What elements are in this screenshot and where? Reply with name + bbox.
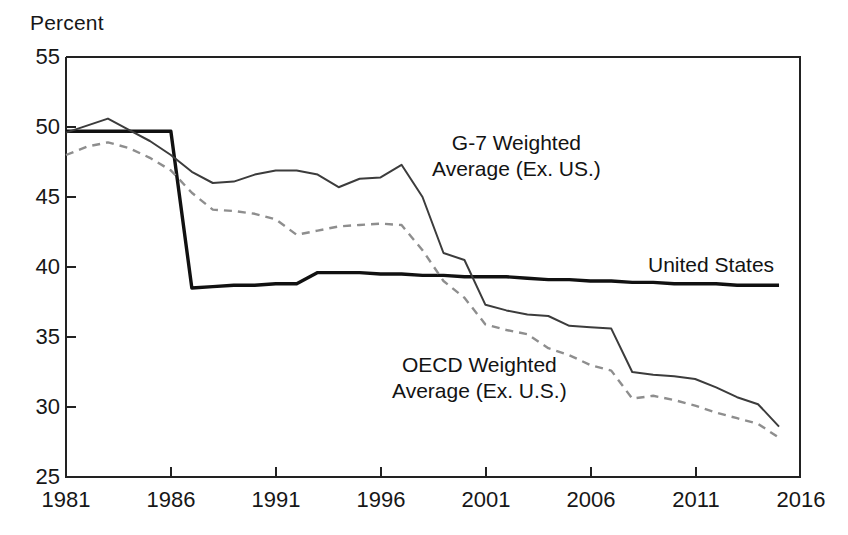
chart-figure: Percent 55 50 45 40 35 30 25 1981 1986 1… <box>0 0 848 535</box>
axis-frame <box>66 57 800 477</box>
series-layer <box>66 119 779 438</box>
series-line <box>66 119 779 427</box>
axis-ticks <box>66 127 696 477</box>
chart-canvas <box>0 0 848 535</box>
series-line <box>66 142 779 437</box>
series-line <box>66 131 779 288</box>
